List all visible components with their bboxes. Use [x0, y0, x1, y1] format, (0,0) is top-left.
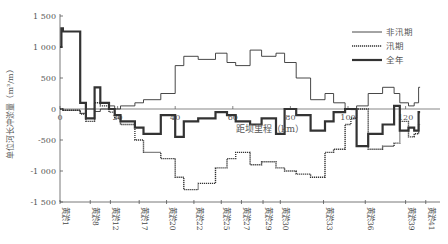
- section-label: 黄淤17: [140, 207, 150, 231]
- y-tick-label: 1 000: [33, 43, 56, 52]
- y-axis: 1 5001 0005000-500-1 000-1 500: [30, 12, 63, 207]
- section-label: 黄淤29: [264, 207, 274, 231]
- x-axis-label: 距坝里程（km）: [236, 124, 304, 134]
- x-tick-label: 80: [285, 113, 295, 122]
- section-label: 黄淤41: [427, 207, 437, 231]
- section-label: 黄淤1: [61, 207, 71, 226]
- legend-label: 非汛期: [386, 27, 413, 37]
- x-tick-label: 0: [57, 113, 62, 122]
- chart: 1 5001 0005000-500-1 000-1 500 020406080…: [0, 0, 448, 244]
- x-tick-label: 100: [340, 113, 355, 122]
- section-label: 黄淤39: [407, 207, 417, 231]
- legend-label: 全年: [386, 55, 404, 65]
- section-label: 黄淤25: [222, 207, 232, 231]
- legend-label: 汛期: [386, 41, 404, 51]
- y-tick-label: -500: [38, 136, 56, 145]
- section-label: 黄淤33: [325, 207, 335, 231]
- y-tick-label: 1 500: [33, 12, 56, 21]
- y-tick-label: -1 500: [30, 198, 56, 207]
- legend: 非汛期汛期全年: [352, 27, 413, 65]
- y-tick-label: 500: [41, 74, 56, 83]
- section-label: 黄淤27: [242, 207, 252, 231]
- section-label: 黄淤12: [111, 207, 121, 231]
- section-label: 黄淤30: [281, 207, 291, 231]
- section-label: 黄淤36: [366, 207, 376, 231]
- y-tick-label: 0: [51, 105, 56, 114]
- section-label: 黄淤22: [195, 207, 205, 231]
- section-label: 黄淤8: [91, 207, 101, 226]
- section-axis: 黄淤1黄淤8黄淤12黄淤17黄淤20黄淤22黄淤25黄淤27黄淤29黄淤30黄淤…: [60, 200, 440, 231]
- y-tick-label: -1 000: [30, 167, 56, 176]
- y-axis-label: 单位河长冲淤量（m³/m）: [5, 65, 15, 158]
- section-label: 黄淤20: [168, 207, 178, 231]
